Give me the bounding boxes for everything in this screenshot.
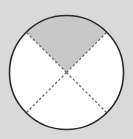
fraction-circle-diagram <box>0 0 133 139</box>
